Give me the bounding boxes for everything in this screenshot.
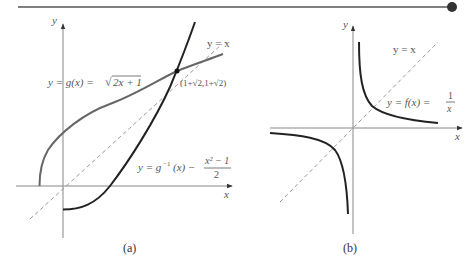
y-axis-label-b: y (342, 18, 348, 30)
header-rule (18, 2, 457, 12)
x-axis-label-b: x (454, 130, 460, 142)
figure: y x y = x (1+√2,1+√2) y = g(x) = √ 2x + … (0, 0, 468, 269)
curve-f-label: y = f(x) = 1 x (386, 90, 455, 114)
curve-g-label: y = g(x) = √ 2x + 1 (47, 75, 142, 89)
curve-ginv-numerator: x² − 1 (204, 155, 229, 166)
caption-b: (b) (343, 241, 357, 255)
sqrt-symbol: √ (105, 75, 112, 89)
curve-f-numerator: 1 (448, 90, 453, 101)
y-axis-label-a: y (51, 14, 57, 26)
identity-label-a: y = x (207, 37, 230, 49)
curve-g-label-lhs: y = g(x) = (47, 76, 94, 89)
panel-a: y x y = x (1+√2,1+√2) y = g(x) = √ 2x + … (16, 14, 232, 255)
curve-ginv-label-sup: −1 (163, 160, 171, 168)
x-axis-label-a: x (223, 188, 229, 200)
curve-ginv (63, 22, 195, 210)
curve-ginv-label: y = g −1 (x) − x² − 1 2 (137, 155, 231, 180)
curve-ginv-denominator: 2 (214, 169, 219, 180)
curve-f-label-lhs: y = f(x) = (386, 96, 430, 109)
header-dot (447, 2, 457, 12)
curve-g-label-radicand: 2x + 1 (113, 76, 142, 88)
intersection-label: (1+√2,1+√2) (180, 78, 226, 88)
curve-ginv-label-lhs: y = g (137, 161, 162, 173)
panel-b: y x y = x y = f(x) = 1 x (b) (270, 18, 462, 255)
intersection-point (175, 69, 180, 74)
caption-a: (a) (123, 241, 136, 255)
curve-ginv-label-mid: (x) − (173, 161, 195, 174)
identity-line-a (30, 44, 222, 219)
identity-label-b: y = x (393, 43, 416, 55)
curve-f-denominator: x (446, 103, 452, 114)
curve-g (40, 54, 224, 186)
